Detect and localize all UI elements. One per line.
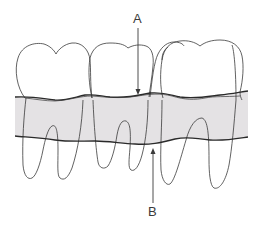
arrow-b-head xyxy=(151,148,156,154)
label-a: A xyxy=(133,12,142,25)
arrow-a-head xyxy=(136,89,141,95)
right-tooth-crown xyxy=(161,40,243,100)
right-tooth-overlap-outline xyxy=(150,42,184,97)
left-tooth-crown xyxy=(16,43,92,98)
right-tooth-inner-line xyxy=(162,47,168,60)
teeth-diagram xyxy=(0,0,260,225)
middle-tooth-crown xyxy=(89,43,153,98)
label-b: B xyxy=(148,205,157,218)
